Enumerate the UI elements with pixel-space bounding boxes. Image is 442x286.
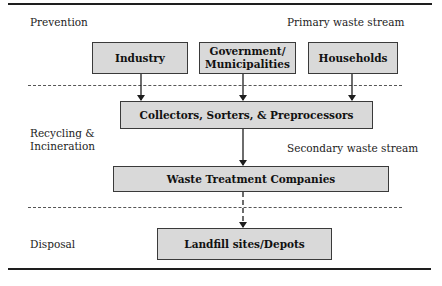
arrows-layer (0, 0, 442, 286)
